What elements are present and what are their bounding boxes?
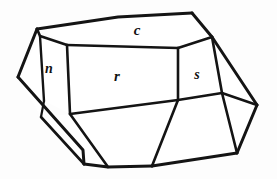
face-label-r: r xyxy=(114,68,120,84)
face-label-s: s xyxy=(193,67,200,82)
face-label-c: c xyxy=(134,22,141,38)
crystal-figure: cnrs xyxy=(0,0,277,179)
crystal-drawing: cnrs xyxy=(0,0,277,179)
face-label-n: n xyxy=(45,61,53,76)
